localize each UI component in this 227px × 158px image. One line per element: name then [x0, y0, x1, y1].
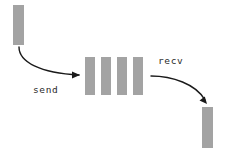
diagram-svg: send recv — [0, 0, 227, 158]
node-queue-slot-1 — [85, 57, 95, 95]
recv-arrow-label: recv — [158, 55, 183, 66]
recv-arrow-path — [151, 76, 205, 100]
diagram-canvas: send recv — [0, 0, 227, 158]
node-source-message — [13, 5, 24, 45]
send-arrow-label: send — [33, 84, 58, 95]
node-destination-message — [202, 107, 213, 148]
send-arrow-head — [72, 72, 80, 79]
send-arrow-path — [19, 47, 79, 75]
node-queue-slot-3 — [117, 57, 127, 95]
node-queue-slot-4 — [133, 57, 143, 95]
node-queue-slot-2 — [101, 57, 111, 95]
